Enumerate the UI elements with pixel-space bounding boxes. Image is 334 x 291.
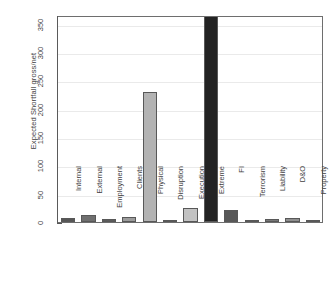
x-axis-label: D&O (297, 166, 309, 228)
x-axis-label: Clients (134, 166, 146, 228)
y-axis-tick-label: 0 (30, 212, 52, 234)
x-axis-label: Terrorism (257, 166, 269, 228)
y-axis-tick-label: 300 (30, 42, 52, 64)
x-axis-label: Execution (196, 166, 208, 228)
x-axis-labels: InternalExternalEmploymentClientsPhysica… (58, 224, 323, 291)
x-axis-label: Physical (155, 166, 167, 228)
y-axis-tick-label: 50 (30, 184, 52, 206)
y-axis-tick-label: 150 (30, 127, 52, 149)
x-axis-label: FI (236, 166, 248, 228)
y-axis-tick-label: 200 (30, 99, 52, 121)
y-axis-tick-label: 350 (30, 14, 52, 36)
x-axis-label: Internal (73, 166, 85, 228)
x-axis-label: Liability (277, 166, 289, 228)
y-axis: 050100150200250300350 (34, 16, 58, 223)
y-axis-tick-label: 250 (30, 70, 52, 92)
bar-chart: Expected Shortfall gross/net 05010015020… (0, 0, 334, 291)
x-axis-label: Employment (114, 166, 126, 228)
x-axis-label: Extreme (216, 166, 228, 228)
x-axis-label: External (94, 166, 106, 228)
y-axis-tick-label: 100 (30, 155, 52, 177)
x-axis-label: Disruption (175, 166, 187, 228)
x-axis-label: Property (318, 166, 330, 228)
